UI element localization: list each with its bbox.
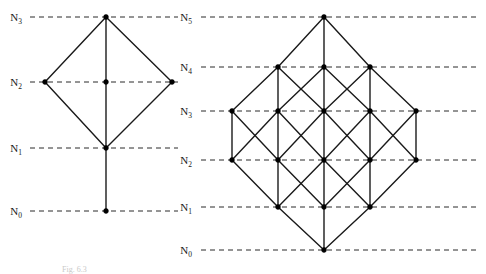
poset-node bbox=[276, 109, 281, 114]
poset-node bbox=[368, 158, 373, 163]
poset-node bbox=[104, 15, 109, 20]
poset-node bbox=[322, 205, 327, 210]
poset-node bbox=[322, 65, 327, 70]
figure-background bbox=[0, 0, 486, 274]
hasse-diagram-figure: N0N1N2N3N0N1N2N3N4N5 Fig. 6.3 bbox=[0, 0, 486, 274]
poset-node bbox=[170, 80, 175, 85]
poset-node bbox=[368, 65, 373, 70]
poset-node bbox=[230, 158, 235, 163]
figure-caption-layer: Fig. 6.3 bbox=[62, 265, 87, 274]
figure-caption: Fig. 6.3 bbox=[62, 265, 87, 274]
poset-node bbox=[104, 209, 109, 214]
poset-node bbox=[276, 205, 281, 210]
poset-node bbox=[322, 15, 327, 20]
figure-root: N0N1N2N3N0N1N2N3N4N5 Fig. 6.3 bbox=[0, 0, 486, 274]
poset-node bbox=[276, 158, 281, 163]
poset-node bbox=[414, 158, 419, 163]
poset-node bbox=[322, 109, 327, 114]
poset-node bbox=[322, 158, 327, 163]
poset-node bbox=[414, 109, 419, 114]
poset-node bbox=[368, 109, 373, 114]
poset-node bbox=[230, 109, 235, 114]
poset-node bbox=[322, 248, 327, 253]
poset-node bbox=[368, 205, 373, 210]
poset-node bbox=[104, 80, 109, 85]
poset-node bbox=[104, 146, 109, 151]
poset-node bbox=[43, 80, 48, 85]
poset-node bbox=[276, 65, 281, 70]
